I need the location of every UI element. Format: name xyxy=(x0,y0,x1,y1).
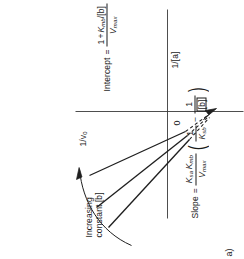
y-axis-label-subscript: 0 xyxy=(82,131,88,134)
intercept-fraction-bar xyxy=(107,3,108,45)
increasing-constant-annotation: Increasing constant [b] xyxy=(85,175,104,237)
increasing-annotation-line2: constant [b] xyxy=(93,192,103,237)
intercept-numerator-k: K xyxy=(96,26,106,32)
plot-text-layer: a) Increasing constant [b] 1/v0 0 1/[a] … xyxy=(76,0,170,259)
intercept-fraction: 1+Kmb/[b] Vmax xyxy=(97,3,119,45)
intercept-denominator-v-subscript: max xyxy=(112,16,118,28)
figure-root: a) Increasing constant [b] 1/v0 0 1/[a] … xyxy=(76,0,170,259)
intercept-label: Intercept xyxy=(103,57,113,91)
increasing-annotation-line1: Increasing xyxy=(84,197,94,237)
intercept-numerator-plus: + xyxy=(96,32,106,39)
intercept-equals: = xyxy=(103,48,113,55)
y-axis-label-text: 1/v xyxy=(78,134,88,146)
intercept-numerator-k-subscript: mb xyxy=(100,18,106,27)
intercept-numerator-one: 1 xyxy=(96,39,106,44)
intercept-equation: Intercept = 1+Kmb/[b] Vmax xyxy=(97,3,119,91)
intercept-numerator: 1+Kmb/[b] xyxy=(97,3,106,45)
intercept-numerator-b: [b] xyxy=(96,5,106,15)
y-axis-label: 1/v0 xyxy=(79,131,89,146)
intercept-denominator-v: V xyxy=(108,28,118,34)
intercept-denominator: Vmax xyxy=(109,14,118,35)
